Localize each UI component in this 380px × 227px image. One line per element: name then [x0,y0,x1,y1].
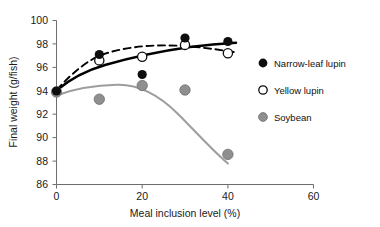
y-tick-label-96: 96 [36,61,48,73]
y-tick-label-98: 98 [36,38,48,50]
y-ticks [53,21,57,185]
data-point [95,50,104,59]
data-point [138,52,147,61]
x-tick-labels: 0 20 40 60 [54,190,320,202]
y-tick-label-100: 100 [30,14,48,26]
soybean-fit-curve [57,85,228,164]
y-tick-label-90: 90 [36,131,48,143]
legend-label: Narrow-leaf lupin [274,58,346,69]
fit-curves [57,43,237,164]
x-tick-label-0: 0 [54,190,60,202]
legend-item-yellow-lupin[interactable]: Yellow lupin [259,85,324,96]
data-point [223,149,233,159]
legend-item-narrow-leaf-lupin[interactable]: Narrow-leaf lupin [259,58,346,69]
data-point [180,33,189,42]
y-tick-label-86: 86 [36,178,48,190]
legend-marker-filled-circle-icon [259,59,268,68]
data-point [138,70,147,79]
legend-label: Soybean [274,112,312,123]
legend-item-soybean[interactable]: Soybean [259,112,312,123]
scatter-plot: 100 98 96 94 92 90 88 86 0 20 40 60 Fina… [0,0,380,227]
x-axis-title: Meal inclusion level (%) [130,207,240,219]
data-point [137,80,147,90]
x-ticks [57,185,314,189]
x-tick-label-40: 40 [222,190,234,202]
series-soybean-points [51,80,233,159]
data-point [52,86,61,95]
y-tick-label-92: 92 [36,108,48,120]
y-tick-label-94: 94 [36,85,48,97]
chart-legend: Narrow-leaf lupin Yellow lupin Soybean [259,58,346,123]
chart-figure: 100 98 96 94 92 90 88 86 0 20 40 60 Fina… [0,0,380,227]
legend-label: Yellow lupin [274,85,324,96]
legend-marker-open-circle-icon [259,86,267,94]
data-point [180,85,190,95]
y-tick-labels: 100 98 96 94 92 90 88 86 [30,14,48,190]
x-tick-label-60: 60 [308,190,320,202]
x-tick-label-20: 20 [136,190,148,202]
legend-marker-gray-circle-icon [259,113,268,122]
y-axis-title: Final weight (g/fish) [7,56,19,147]
data-point [223,49,232,58]
y-tick-label-88: 88 [36,155,48,167]
data-point [94,94,104,104]
data-point [223,37,232,46]
